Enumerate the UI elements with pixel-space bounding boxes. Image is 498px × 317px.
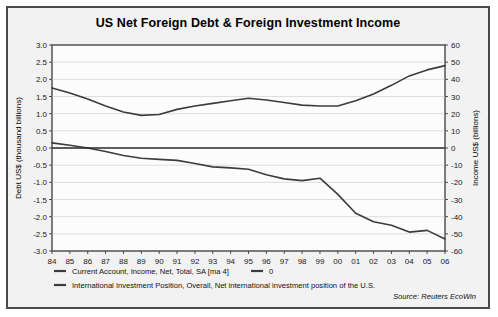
x-axis-tick-label: 92 bbox=[190, 257, 199, 266]
legend-label-debt: International Investment Position, Overa… bbox=[72, 281, 375, 290]
x-axis-tick-label: 95 bbox=[244, 257, 253, 266]
y2-axis-tick-label: -10 bbox=[451, 161, 463, 170]
x-axis-tick-label: 01 bbox=[351, 257, 360, 266]
y-axis-tick-label: -2.5 bbox=[33, 230, 47, 239]
x-axis-tick-label: 98 bbox=[298, 257, 307, 266]
y2-axis-tick-label: 10 bbox=[451, 127, 460, 136]
x-axis-tick-label: 90 bbox=[155, 257, 164, 266]
y2-axis-title: Income US$ (billions) bbox=[471, 110, 480, 186]
x-axis-tick-label: 88 bbox=[119, 257, 128, 266]
x-axis-tick-label: 87 bbox=[101, 257, 110, 266]
y-axis-title: Debt US$ (thousand billions) bbox=[14, 97, 23, 199]
x-axis-tick-label: 93 bbox=[208, 257, 217, 266]
chart-plot-area: 3.02.52.01.51.00.50.0-0.5-1.0-1.5-2.0-2.… bbox=[8, 8, 492, 311]
y-axis-tick-label: -1.0 bbox=[33, 178, 47, 187]
legend-label-zero: 0 bbox=[269, 267, 273, 276]
y2-axis-tick-label: 50 bbox=[451, 58, 460, 67]
y2-axis-tick-label: -60 bbox=[451, 247, 463, 256]
x-axis-tick-label: 96 bbox=[262, 257, 271, 266]
y2-axis-tick-label: 60 bbox=[451, 41, 460, 50]
y-axis-tick-label: -0.5 bbox=[33, 161, 47, 170]
y-axis-tick-label: 0.5 bbox=[36, 127, 48, 136]
x-axis-tick-label: 94 bbox=[226, 257, 235, 266]
y-axis-tick-label: 0.0 bbox=[36, 144, 48, 153]
y2-axis-tick-label: -50 bbox=[451, 230, 463, 239]
y-axis-tick-label: -2.0 bbox=[33, 213, 47, 222]
y-axis-tick-label: 1.0 bbox=[36, 110, 48, 119]
y-axis-tick-label: 3.0 bbox=[36, 41, 48, 50]
x-axis-tick-label: 02 bbox=[369, 257, 378, 266]
x-axis-tick-label: 86 bbox=[83, 257, 92, 266]
x-axis-tick-label: 97 bbox=[280, 257, 289, 266]
y2-axis-tick-label: 40 bbox=[451, 75, 460, 84]
y2-axis-tick-label: -40 bbox=[451, 213, 463, 222]
y-axis-tick-label: -3.0 bbox=[33, 247, 47, 256]
y-axis-tick-label: 2.5 bbox=[36, 58, 48, 67]
y2-axis-tick-label: 20 bbox=[451, 110, 460, 119]
x-axis-tick-label: 89 bbox=[137, 257, 146, 266]
x-axis-tick-label: 03 bbox=[387, 257, 396, 266]
y2-axis-tick-label: 0 bbox=[451, 144, 456, 153]
y2-axis-tick-label: 30 bbox=[451, 93, 460, 102]
x-axis-tick-label: 99 bbox=[316, 257, 325, 266]
chart-figure: US Net Foreign Debt & Foreign Investment… bbox=[6, 6, 490, 309]
y-axis-tick-label: -1.5 bbox=[33, 196, 47, 205]
y2-axis-tick-label: -20 bbox=[451, 178, 463, 187]
y-axis-tick-label: 1.5 bbox=[36, 93, 48, 102]
x-axis-tick-label: 05 bbox=[423, 257, 432, 266]
legend-label-income: Current Account, Income, Net, Total, SA … bbox=[72, 267, 229, 276]
source-attribution: Source: Reuters EcoWin bbox=[393, 292, 476, 301]
y-axis-tick-label: 2.0 bbox=[36, 75, 48, 84]
y2-axis-tick-label: -30 bbox=[451, 196, 463, 205]
x-axis-tick-label: 04 bbox=[405, 257, 414, 266]
x-axis-tick-label: 00 bbox=[333, 257, 342, 266]
x-axis-tick-label: 85 bbox=[65, 257, 74, 266]
x-axis-tick-label: 91 bbox=[173, 257, 182, 266]
x-axis-tick-label: 84 bbox=[48, 257, 57, 266]
x-axis-tick-label: 06 bbox=[441, 257, 450, 266]
